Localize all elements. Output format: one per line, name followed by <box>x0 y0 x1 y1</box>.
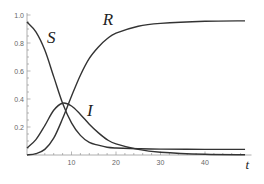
x-axis-label: t <box>246 157 250 172</box>
curve-s <box>27 22 245 149</box>
y-tick-label: 0.2 <box>14 124 24 131</box>
x-tick-label: 10 <box>68 159 76 166</box>
label-s: S <box>47 28 56 47</box>
x-tick-label: 30 <box>157 159 165 166</box>
y-tick-label: 0.8 <box>14 40 24 47</box>
label-r: R <box>102 10 114 29</box>
x-tick-label: 40 <box>201 159 209 166</box>
curve-labels: SRI <box>47 10 114 120</box>
y-tick-label: 0.6 <box>14 68 24 75</box>
curves <box>27 21 245 155</box>
y-tick-label: 0.4 <box>14 96 24 103</box>
label-i: I <box>86 101 94 120</box>
curve-i <box>27 103 245 155</box>
x-tick-label: 20 <box>112 159 120 166</box>
curve-r <box>27 21 245 155</box>
y-tick-label: 1.0 <box>14 12 24 19</box>
sir-chart: 102030400.20.40.60.81.0t SRI <box>0 0 264 184</box>
